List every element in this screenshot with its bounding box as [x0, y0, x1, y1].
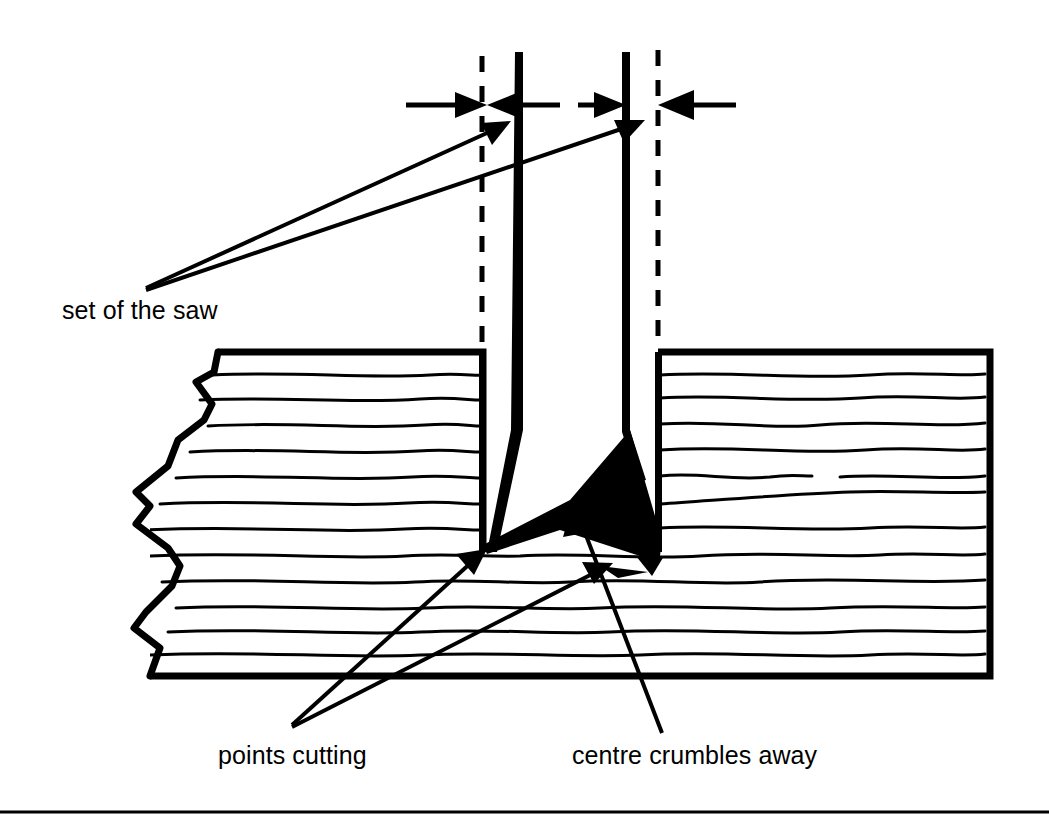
- arrow-left-icon-2: [487, 92, 519, 118]
- grain-line: [200, 397, 985, 401]
- grain-line: [150, 554, 985, 557]
- grain-line: [212, 374, 985, 377]
- label-set-of-the-saw: set of the saw: [62, 296, 218, 325]
- leader-line-set-lower: [146, 126, 630, 290]
- dimension-arrows-group: [406, 90, 736, 120]
- arrow-left-icon-4: [658, 90, 694, 120]
- grain-line: [176, 606, 985, 609]
- leader-line-points-cutting-right: [292, 570, 600, 727]
- grain-line: [208, 423, 985, 427]
- saw-blade-right: [622, 52, 646, 482]
- grain-line: [190, 449, 985, 453]
- leader-line-set-upper: [146, 128, 498, 288]
- leader-line-points-cutting-left: [292, 560, 474, 725]
- label-centre-crumbles-away: centre crumbles away: [572, 741, 817, 770]
- figure-canvas: set of the saw points cutting centre cru…: [0, 0, 1049, 825]
- saw-set-diagram: [0, 0, 1049, 825]
- grain-line: [168, 630, 985, 633]
- label-points-cutting: points cutting: [218, 741, 367, 770]
- grain-line: [150, 653, 985, 656]
- kerf-wall-left: [479, 352, 486, 552]
- dashed-reference-lines: [482, 50, 658, 350]
- arrow-right-icon-3: [594, 92, 626, 118]
- grain-line: [176, 475, 985, 479]
- points-cutting-leaders: [292, 549, 613, 727]
- set-of-saw-leaders: [146, 120, 645, 290]
